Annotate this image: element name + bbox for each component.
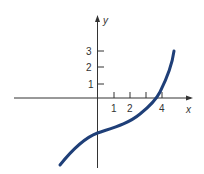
x-ticks — [114, 92, 162, 98]
y-ticks — [98, 51, 105, 84]
chart: 1 2 4 1 2 3 x y — [0, 0, 204, 174]
y-axis-label: y — [102, 15, 109, 26]
y-axis-arrow-icon — [95, 15, 100, 22]
x-tick-label-2: 2 — [127, 103, 133, 114]
x-tick-label-4: 4 — [159, 103, 165, 114]
function-curve — [60, 51, 174, 165]
x-tick-label-1: 1 — [111, 103, 117, 114]
y-tick-label-3: 3 — [86, 46, 92, 57]
y-tick-label-2: 2 — [86, 62, 92, 73]
y-tick-label-1: 1 — [88, 79, 94, 90]
x-axis-arrow-icon — [186, 96, 193, 101]
x-axis-label: x — [185, 104, 192, 115]
